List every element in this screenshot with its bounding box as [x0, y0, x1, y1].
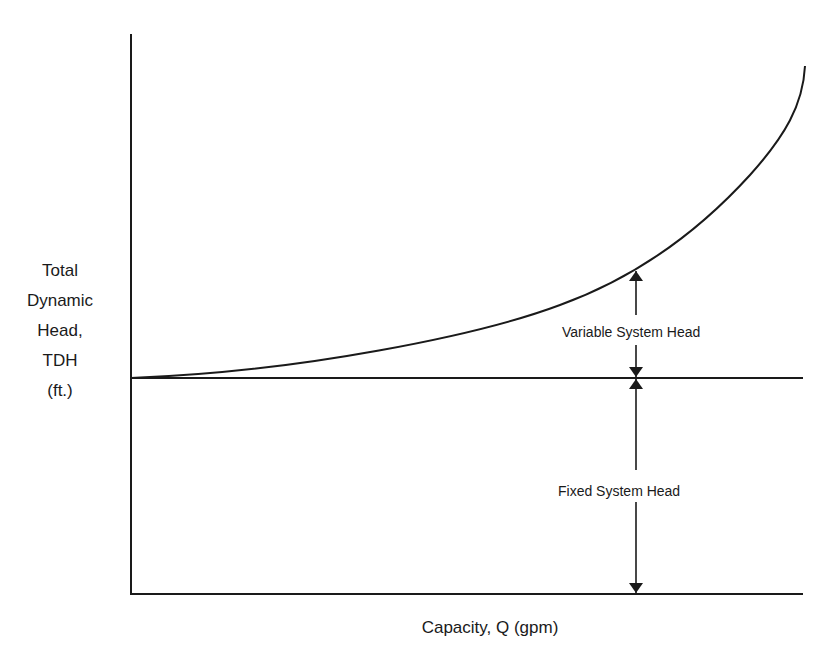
y-axis-label-line: Total [10, 256, 110, 286]
y-axis-label-line: Dynamic [10, 286, 110, 316]
system-head-diagram [0, 0, 836, 665]
system-head-curve [131, 66, 805, 378]
fixed-system-head-label: Fixed System Head [558, 482, 680, 500]
y-axis-label: Total Dynamic Head, TDH (ft.) [10, 256, 110, 406]
y-axis-label-line: Head, [10, 316, 110, 346]
y-axis-label-line: TDH [10, 346, 110, 376]
x-axis-label: Capacity, Q (gpm) [360, 618, 620, 638]
variable-system-head-label: Variable System Head [562, 323, 700, 341]
y-axis-label-line: (ft.) [10, 376, 110, 406]
